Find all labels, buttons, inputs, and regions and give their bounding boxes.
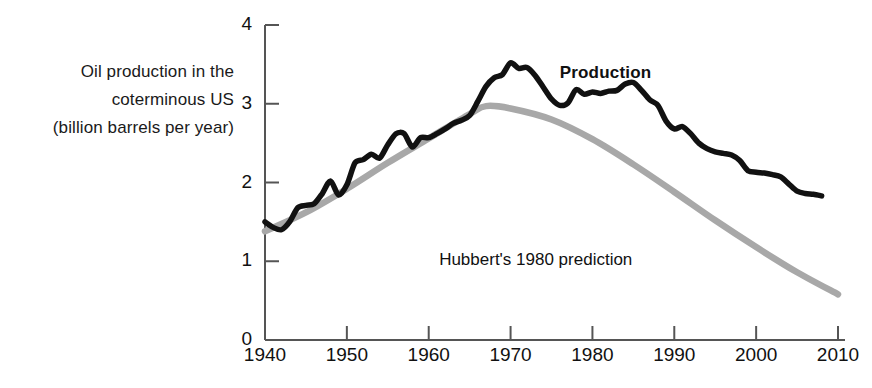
x-tick-label: 2010 bbox=[808, 344, 868, 366]
series-label-production: Production bbox=[560, 63, 652, 83]
x-tick-label: 1940 bbox=[235, 344, 295, 366]
x-tick-label: 1990 bbox=[644, 344, 704, 366]
production-line bbox=[265, 63, 822, 230]
plot-area bbox=[0, 0, 872, 388]
y-tick-label: 2 bbox=[222, 171, 252, 193]
y-tick-label: 3 bbox=[222, 92, 252, 114]
y-tick-label: 4 bbox=[222, 13, 252, 35]
x-tick-label: 1960 bbox=[399, 344, 459, 366]
y-tick-marks bbox=[265, 25, 279, 340]
x-tick-label: 1970 bbox=[481, 344, 541, 366]
x-tick-label: 1950 bbox=[317, 344, 377, 366]
chart-figure: Oil production in the coterminous US (bi… bbox=[0, 0, 872, 388]
y-tick-label: 1 bbox=[222, 249, 252, 271]
x-tick-label: 2000 bbox=[726, 344, 786, 366]
x-tick-marks bbox=[265, 326, 838, 340]
x-tick-label: 1980 bbox=[562, 344, 622, 366]
series-label-prediction: Hubbert's 1980 prediction bbox=[439, 250, 632, 270]
